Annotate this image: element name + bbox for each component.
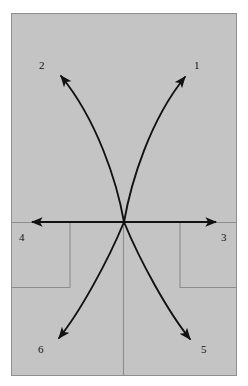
arrow-2-label: 2: [39, 60, 45, 71]
arrow-4-label: 4: [19, 232, 25, 243]
arrow-6-label: 6: [38, 344, 44, 355]
vector-diagram: [0, 0, 248, 386]
arrow-1-label: 1: [194, 60, 200, 71]
figure-container: 1 2 3 4 5 6: [0, 0, 248, 386]
arrow-3-label: 3: [221, 232, 227, 243]
arrow-5-label: 5: [201, 344, 207, 355]
